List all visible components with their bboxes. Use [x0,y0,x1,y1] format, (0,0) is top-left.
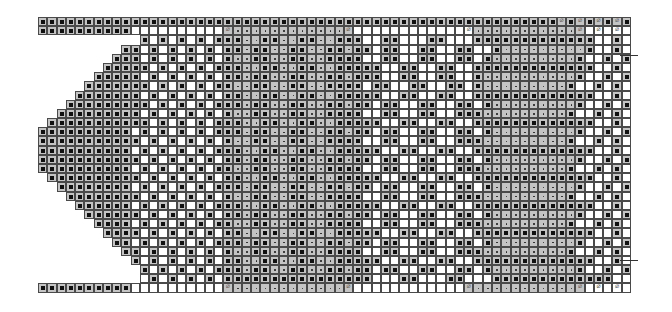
knit-stitch-cell [121,63,130,72]
knit-stitch-cell [427,109,436,118]
knit-stitch-cell [223,247,232,256]
purl-stitch-cell [279,100,288,109]
no-stitch-cell [38,72,47,81]
knit-stitch-cell [140,201,149,210]
knit-stitch-cell [622,238,631,247]
no-stitch-cell [57,210,66,219]
purl-stitch-cell [316,136,325,145]
purl-stitch-cell [325,63,334,72]
knit-stitch-cell [464,54,473,63]
knit-stitch-cell [103,219,112,228]
knit-stitch-cell [288,238,297,247]
knit-stitch-cell [103,109,112,118]
knit-stitch-cell [38,283,47,292]
purl-stitch-cell [242,81,251,90]
knit-stitch-cell [251,100,260,109]
purl-stitch-cell [335,283,344,292]
empty-cell [214,155,223,164]
no-stitch-cell [57,201,66,210]
empty-cell [483,45,492,54]
knit-stitch-cell [168,136,177,145]
knit-stitch-cell [57,164,66,173]
empty-cell [399,45,408,54]
empty-cell [585,164,594,173]
knit-stitch-cell [325,210,334,219]
knit-stitch-cell [112,81,121,90]
knit-stitch-cell [335,81,344,90]
empty-cell [622,146,631,155]
knit-stitch-cell [473,247,482,256]
empty-cell [603,219,612,228]
no-stitch-cell [57,219,66,228]
empty-cell [158,155,167,164]
knit-stitch-cell [557,173,566,182]
no-stitch-cell [38,81,47,90]
empty-cell [140,283,149,292]
chart-row [38,256,631,265]
knit-stitch-cell [140,164,149,173]
purl-stitch-cell [242,164,251,173]
yarn-over-cell [344,26,353,35]
knit-stitch-cell [103,91,112,100]
empty-cell [575,109,584,118]
empty-cell [585,219,594,228]
empty-cell [622,283,631,292]
empty-cell [473,210,482,219]
knit-stitch-cell [47,127,56,136]
empty-cell [205,81,214,90]
empty-cell [140,247,149,256]
empty-cell [585,265,594,274]
empty-cell [436,182,445,191]
knit-stitch-cell [483,155,492,164]
purl-stitch-cell [557,81,566,90]
knit-stitch-cell [548,274,557,283]
empty-cell [149,100,158,109]
purl-stitch-cell [270,155,279,164]
knit-stitch-cell [418,17,427,26]
empty-cell [140,54,149,63]
knit-stitch-cell [214,182,223,191]
empty-cell [158,210,167,219]
knit-stitch-cell [325,182,334,191]
knit-stitch-cell [575,118,584,127]
knit-stitch-cell [38,164,47,173]
knit-stitch-cell [353,210,362,219]
knit-stitch-cell [131,17,140,26]
knit-stitch-cell [84,155,93,164]
purl-stitch-cell [492,26,501,35]
knit-stitch-cell [335,182,344,191]
knit-stitch-cell [622,155,631,164]
empty-cell [214,136,223,145]
knit-stitch-cell [585,228,594,237]
knit-stitch-cell [353,201,362,210]
knit-stitch-cell [297,100,306,109]
no-stitch-cell [66,265,75,274]
empty-cell [381,256,390,265]
empty-cell [594,201,603,210]
knit-stitch-cell [297,118,306,127]
empty-cell [409,100,418,109]
knit-stitch-cell [205,91,214,100]
purl-stitch-cell [501,247,510,256]
empty-cell [177,247,186,256]
no-stitch-cell [47,192,56,201]
knit-stitch-cell [168,45,177,54]
knit-stitch-cell [260,63,269,72]
knit-stitch-cell [418,238,427,247]
knit-stitch-cell [196,182,205,191]
purl-stitch-cell [501,72,510,81]
purl-stitch-cell [538,283,547,292]
empty-cell [158,173,167,182]
knit-stitch-cell [140,182,149,191]
knit-stitch-cell [121,45,130,54]
empty-cell [381,201,390,210]
knit-stitch-cell [381,54,390,63]
knit-stitch-cell [399,146,408,155]
knit-stitch-cell [612,146,621,155]
knit-stitch-cell [251,17,260,26]
empty-cell [622,91,631,100]
knit-stitch-cell [575,127,584,136]
knit-stitch-cell [66,26,75,35]
knit-stitch-cell [372,173,381,182]
purl-stitch-cell [307,247,316,256]
